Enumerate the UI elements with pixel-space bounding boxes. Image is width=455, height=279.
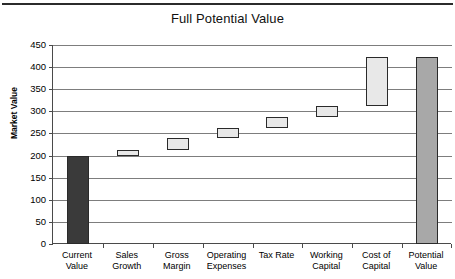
y-tick-mark xyxy=(49,45,53,46)
x-tick-mark xyxy=(203,244,204,248)
y-tick-label: 200 xyxy=(6,151,46,161)
bar-working-capital xyxy=(316,106,338,117)
y-tick-mark xyxy=(49,133,53,134)
x-tick-label: PotentialValue xyxy=(394,250,455,271)
x-tick-mark xyxy=(103,244,104,248)
top-divider xyxy=(2,3,453,5)
y-tick-label: 350 xyxy=(6,84,46,94)
x-tick-label-line: Value xyxy=(394,261,455,272)
bar-operating-expenses xyxy=(217,128,239,138)
gridline xyxy=(53,222,452,223)
y-tick-mark xyxy=(49,222,53,223)
gridline xyxy=(53,111,452,112)
y-tick-label: 150 xyxy=(6,173,46,183)
y-tick-mark xyxy=(49,67,53,68)
y-tick-label: 50 xyxy=(6,217,46,227)
bar-cost-of-capital xyxy=(366,57,388,106)
bar-sales-growth xyxy=(117,150,139,157)
y-tick-mark xyxy=(49,89,53,90)
gridline xyxy=(53,156,452,157)
x-tick-label-line: Expenses xyxy=(195,261,259,272)
y-tick-label: 250 xyxy=(6,128,46,138)
chart-figure: Full Potential Value Market Value 450400… xyxy=(0,0,455,279)
gridline xyxy=(53,89,452,90)
x-tick-mark xyxy=(302,244,303,248)
y-tick-label: 300 xyxy=(6,106,46,116)
x-tick-mark xyxy=(451,244,452,248)
gridline xyxy=(53,200,452,201)
bar-current-value xyxy=(67,156,89,244)
y-tick-mark xyxy=(49,156,53,157)
x-tick-mark xyxy=(402,244,403,248)
gridline xyxy=(53,67,452,68)
gridline xyxy=(53,178,452,179)
y-tick-mark xyxy=(49,200,53,201)
bar-potential-value xyxy=(416,57,438,244)
bar-tax-rate xyxy=(266,117,288,128)
y-tick-mark xyxy=(49,111,53,112)
y-tick-mark xyxy=(49,244,53,245)
gridline xyxy=(53,133,452,134)
x-tick-mark xyxy=(153,244,154,248)
gridline xyxy=(53,45,452,46)
y-tick-label: 400 xyxy=(6,62,46,72)
bar-gross-margin xyxy=(167,138,189,150)
x-tick-mark xyxy=(253,244,254,248)
x-tick-label-line: Potential xyxy=(394,250,455,261)
y-tick-label: 100 xyxy=(6,195,46,205)
y-tick-label: 0 xyxy=(6,239,46,249)
y-tick-label: 450 xyxy=(6,40,46,50)
plot-area xyxy=(52,45,451,244)
chart-title: Full Potential Value xyxy=(0,11,455,26)
x-tick-mark xyxy=(352,244,353,248)
y-tick-mark xyxy=(49,178,53,179)
